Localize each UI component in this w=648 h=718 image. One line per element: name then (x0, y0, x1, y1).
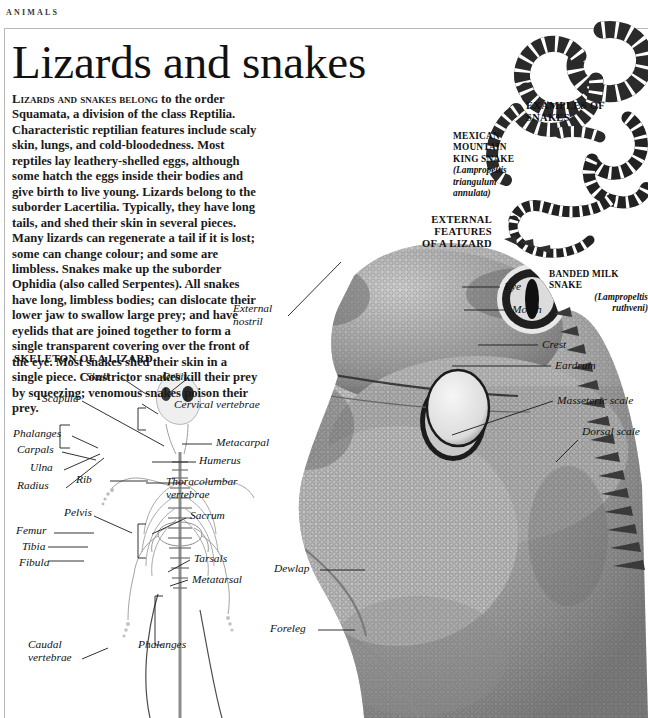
heading-examples-line2: SNAKES (526, 112, 570, 123)
banded-latin-line2: ruthveni) (549, 303, 648, 314)
label-tarsals: Tarsals (194, 552, 227, 565)
page-frame-left-rule (4, 28, 5, 718)
banded-common-line1: BANDED MILK (549, 269, 648, 280)
label-dorsal-scale: Dorsal scale (582, 425, 640, 438)
nuchal-crest-spikes (504, 236, 551, 254)
label-tibia: Tibia (22, 540, 45, 553)
label-metacarpal: Metacarpal (216, 436, 269, 449)
caption-mexican-mountain-king-snake: MEXICAN MOUNTAIN KING SNAKE (Lampropelti… (453, 131, 533, 199)
label-sacrum: Sacrum (190, 509, 225, 522)
label-orbit: Orbit (162, 370, 187, 383)
label-caudal-vertebrae: Caudal vertebrae (28, 638, 72, 663)
mexican-common-line1: MEXICAN (453, 131, 533, 142)
label-rib: Rib (76, 473, 92, 486)
banded-latin-line1: (Lampropeltis (549, 292, 648, 303)
heading-skeleton-of-a-lizard: SKELETON OF A LIZARD (14, 352, 153, 364)
label-radius: Radius (17, 479, 49, 492)
caption-banded-milk-snake: BANDED MILK SNAKE (Lampropeltis ruthveni… (549, 269, 648, 315)
heading-examples-of-snakes: EXAMPLES OF SNAKES (526, 100, 605, 124)
banded-milk-snake-photo (513, 118, 646, 253)
page-title: Lizards and snakes (12, 36, 366, 88)
heading-external-features-line2: OF A LIZARD (422, 238, 492, 249)
encyclopedia-page: ANIMALS Lizards and snakes (0, 0, 648, 718)
heading-examples-line1: EXAMPLES OF (526, 100, 605, 111)
label-metatarsal: Metatarsal (192, 573, 242, 586)
banded-common-line2: SNAKE (549, 280, 648, 291)
label-cervical-vertebrae: Cervical vertebrae (174, 398, 260, 411)
snake-head-segment-photo (560, 132, 600, 137)
label-skull: Skull (86, 370, 109, 383)
intro-lead-small-caps: Lizards and snakes belong (12, 92, 158, 106)
label-eye: Eye (504, 280, 521, 293)
mexican-common-line3: KING SNAKE (453, 154, 533, 165)
label-masseteric-scale: Masseteric scale (557, 394, 633, 407)
label-ulna: Ulna (30, 461, 53, 474)
label-external-nostril: External nostril (233, 302, 272, 327)
label-pelvis: Pelvis (64, 506, 92, 519)
label-eardrum: Eardrum (555, 359, 596, 372)
intro-paragraph: Lizards and snakes belong to the order S… (12, 92, 260, 417)
label-femur: Femur (16, 524, 46, 537)
label-carpals: Carpals (17, 443, 54, 456)
label-humerus: Humerus (199, 454, 241, 467)
label-scapula: Scapula (42, 392, 79, 405)
label-mouth: Mouth (512, 303, 542, 316)
mexican-latin-line1: (Lampropeltis (453, 165, 533, 176)
mexican-latin-line2: triangulum (453, 177, 533, 188)
label-dewlap: Dewlap (274, 562, 309, 575)
label-fibula: Fibula (19, 556, 49, 569)
mexican-latin-line3: annulata) (453, 188, 533, 199)
heading-external-features: EXTERNAL FEATURES OF A LIZARD (372, 214, 492, 250)
mexican-common-line2: MOUNTAIN (453, 142, 533, 153)
lizard-skeleton-xray (96, 366, 276, 718)
label-thoracolumbar-vertebrae: Thoracolumbar vertebrae (166, 475, 238, 500)
running-head: ANIMALS (6, 8, 59, 17)
label-phalanges-hindlimb: Phalanges (138, 638, 186, 651)
label-crest: Crest (542, 338, 566, 351)
label-foreleg: Foreleg (270, 622, 306, 635)
heading-external-features-line1: EXTERNAL FEATURES (431, 214, 492, 237)
label-phalanges-forelimb: Phalanges (13, 427, 61, 440)
